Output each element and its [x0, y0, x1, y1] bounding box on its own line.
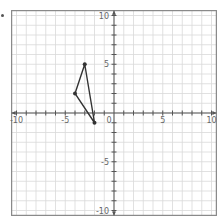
x-tick-label: -5 — [61, 116, 69, 125]
x-tick-label: 0 — [106, 116, 111, 125]
x-tick-label: -10 — [10, 116, 23, 125]
y-tick-label: -10 — [96, 207, 109, 216]
y-axis-arrow-down-icon — [112, 211, 116, 215]
vertex-point — [83, 62, 87, 66]
y-tick-label: 5 — [104, 60, 109, 69]
y-tick-label: -5 — [101, 158, 109, 167]
y-tick-label: 10 — [99, 12, 109, 21]
vertex-point — [73, 92, 77, 96]
x-tick-label: 10 — [206, 116, 216, 125]
coordinate-grid: -10-50510-10-5510 — [0, 0, 222, 220]
vertex-point — [93, 121, 97, 125]
x-tick-label: 5 — [160, 116, 165, 125]
x-axis-arrow-right-icon — [212, 111, 216, 115]
